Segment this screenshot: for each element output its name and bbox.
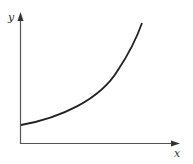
x-axis-arrow-icon bbox=[171, 141, 180, 147]
x-axis-label: x bbox=[174, 147, 181, 160]
function-curve bbox=[21, 23, 142, 125]
y-axis-label: y bbox=[7, 11, 15, 24]
function-graph: y x bbox=[0, 0, 193, 164]
x-axis bbox=[20, 141, 180, 147]
y-axis-arrow-icon bbox=[18, 12, 24, 21]
